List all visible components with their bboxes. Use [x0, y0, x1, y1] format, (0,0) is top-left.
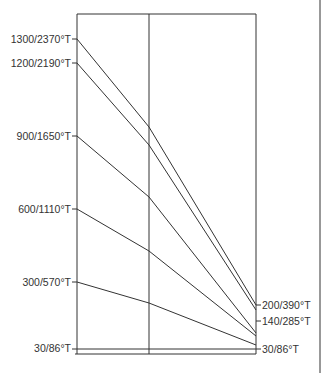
- left-label: 900/1650°T: [17, 130, 72, 142]
- series-1200: [77, 63, 256, 310]
- left-label: 1300/2370°T: [11, 33, 72, 45]
- left-label: 30/86°T: [34, 342, 71, 354]
- temperature-diagram: 1300/2370°T 1200/2190°T 900/1650°T 600/1…: [0, 0, 330, 373]
- right-label: 140/285°T: [262, 315, 311, 327]
- series-600: [77, 209, 256, 336]
- left-label: 300/570°T: [22, 276, 71, 288]
- left-label: 1200/2190°T: [11, 57, 72, 69]
- right-label: 200/390°T: [262, 299, 311, 311]
- right-label: 30/86°T: [262, 343, 299, 355]
- series-900: [77, 136, 256, 333]
- series-300: [77, 282, 256, 345]
- left-label: 600/1110°T: [18, 203, 71, 215]
